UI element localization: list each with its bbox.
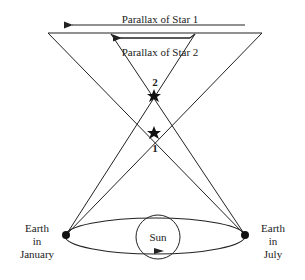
earth-january-line3: January — [14, 248, 60, 261]
sun-label: Sun — [143, 231, 173, 244]
earth-january-dot — [62, 231, 70, 239]
orbit-direction-arrow — [154, 248, 164, 254]
sightline-jul-star1 — [48, 33, 245, 235]
earth-january-line2: in — [14, 235, 60, 248]
earth-july-label: Earth in July — [256, 222, 290, 261]
earth-july-line1: Earth — [256, 222, 290, 235]
sightline-jul-star2 — [111, 34, 245, 235]
earth-july-line2: in — [256, 235, 290, 248]
star1-number: 1 — [150, 142, 160, 155]
parallax-star2-label: Parallax of Star 2 — [110, 46, 210, 59]
parallax-star1-label: Parallax of Star 1 — [110, 13, 210, 26]
star2-number: 2 — [150, 76, 160, 89]
earth-january-label: Earth in January — [14, 222, 60, 261]
earth-july-dot — [241, 231, 249, 239]
earth-january-line1: Earth — [14, 222, 60, 235]
sightline-jan-star1 — [66, 33, 262, 235]
earth-july-line3: July — [256, 248, 290, 261]
